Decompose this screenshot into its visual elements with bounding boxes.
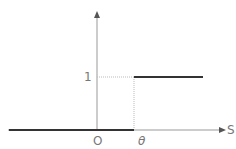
origin-label: O bbox=[93, 135, 102, 147]
y-tick-1: 1 bbox=[84, 71, 92, 83]
step-function-chart bbox=[0, 0, 236, 149]
theta-label: θ bbox=[138, 135, 145, 147]
y-axis-arrow-icon bbox=[94, 11, 100, 18]
x-axis-label: S bbox=[227, 124, 235, 136]
x-axis-arrow-icon bbox=[219, 127, 226, 133]
